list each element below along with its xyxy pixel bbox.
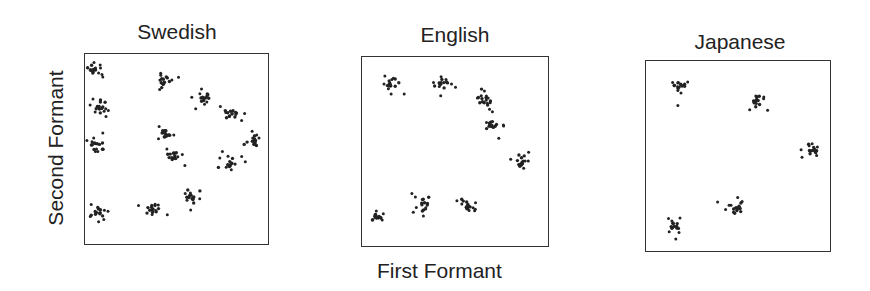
vowel-cluster bbox=[371, 210, 385, 222]
scatter-plot-english bbox=[362, 57, 548, 246]
x-axis-label: First Formant bbox=[377, 259, 502, 283]
vowel-cluster bbox=[748, 94, 769, 111]
vowel-cluster bbox=[716, 196, 744, 215]
y-axis-label: Second Formant bbox=[44, 70, 68, 225]
scatter-plot-swedish bbox=[85, 54, 268, 244]
vowel-cluster bbox=[219, 105, 246, 122]
vowel-cluster bbox=[671, 81, 689, 107]
scatter-panel-japanese bbox=[645, 60, 831, 252]
vowel-cluster bbox=[455, 198, 477, 213]
vowel-cluster bbox=[383, 75, 406, 96]
scatter-plot-japanese bbox=[646, 61, 830, 251]
vowel-cluster bbox=[410, 192, 430, 218]
vowel-cluster bbox=[157, 125, 175, 140]
vowel-cluster bbox=[485, 108, 505, 140]
vowel-cluster bbox=[432, 75, 457, 97]
vowel-cluster bbox=[165, 148, 186, 168]
scatter-panel-swedish bbox=[84, 53, 269, 245]
vowel-cluster bbox=[476, 87, 492, 106]
vowel-cluster bbox=[667, 217, 682, 241]
scatter-panel-english bbox=[361, 56, 549, 247]
vowel-cluster bbox=[184, 188, 202, 211]
vowel-cluster bbox=[86, 61, 104, 78]
vowel-cluster bbox=[137, 203, 169, 216]
vowel-cluster bbox=[243, 130, 261, 147]
panel-title-english: English bbox=[410, 23, 500, 47]
panel-title-swedish: Swedish bbox=[133, 20, 221, 44]
vowel-cluster bbox=[509, 151, 530, 170]
vowel-cluster bbox=[190, 88, 210, 111]
vowel-cluster bbox=[89, 203, 110, 223]
vowel-cluster bbox=[800, 142, 819, 159]
vowel-cluster bbox=[85, 132, 104, 153]
vowel-cluster bbox=[217, 150, 247, 171]
vowel-cluster bbox=[89, 98, 110, 118]
vowel-cluster bbox=[158, 72, 180, 91]
panel-title-japanese: Japanese bbox=[690, 30, 790, 54]
